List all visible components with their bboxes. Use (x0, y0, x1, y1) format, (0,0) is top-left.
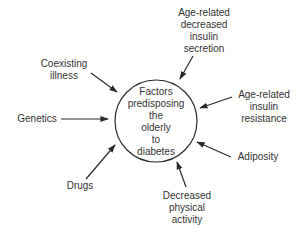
arrow-coexisting-illness (91, 73, 117, 92)
arrow-secretion (180, 56, 193, 79)
factor-coexisting-illness-label: Coexisting illness (36, 58, 92, 82)
factor-genetics-label: Genetics (14, 113, 60, 125)
arrow-adiposity (197, 142, 231, 157)
factor-drugs-label: Drugs (62, 180, 98, 192)
factor-physical-activity-label: Decreased physical activity (160, 190, 214, 226)
factor-resistance-label: Age-related insulin resistance (228, 89, 300, 125)
arrow-physical-activity (177, 162, 186, 187)
arrow-drugs (86, 145, 115, 179)
factor-adiposity-label: Adiposity (233, 151, 283, 163)
center-label: Factors predisposing the olderly to diab… (126, 86, 186, 158)
factor-secretion-label: Age-related decreased insulin secretion (166, 7, 242, 55)
